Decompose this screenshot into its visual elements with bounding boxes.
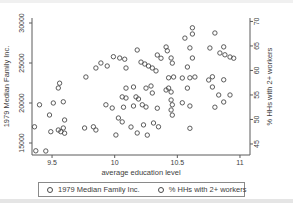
scatter-point: [222, 78, 226, 82]
scatter-point: [110, 106, 114, 110]
y-right-tick-label: 45: [253, 140, 260, 148]
scatter-point: [166, 76, 170, 80]
scatter-point: [207, 78, 211, 82]
scatter-point: [141, 123, 145, 127]
scatter-point: [185, 65, 189, 69]
scatter-point: [129, 125, 133, 129]
scatter-point: [94, 66, 98, 70]
scatter-point: [190, 26, 194, 30]
scatter-point: [61, 100, 65, 104]
scatter-point: [170, 103, 174, 107]
scatter-point: [183, 36, 187, 40]
scatter-point: [62, 118, 66, 122]
scatter-point: [156, 125, 160, 129]
y-left-tick-label: 15000: [18, 133, 25, 153]
y-right-tick-label: 65: [253, 42, 260, 50]
scatter-point: [62, 131, 66, 135]
legend-label-income: 1979 Median Family Inc.: [58, 185, 140, 194]
scatter-point: [190, 32, 194, 36]
scatter-point: [222, 100, 226, 104]
scatter-point: [140, 103, 144, 107]
scatter-point: [56, 86, 60, 90]
y-left-tick-label: 25000: [18, 53, 25, 73]
scatter-point: [170, 113, 174, 117]
y-right-tick-label: 60: [253, 66, 260, 74]
scatter-point: [223, 53, 227, 57]
scatter-point: [188, 46, 192, 50]
scatter-point: [169, 108, 173, 112]
scatter-point: [151, 121, 155, 125]
scatter-point: [91, 125, 95, 129]
legend-box: 1979 Median Family Inc. % HHs with 2+ wo…: [38, 182, 245, 197]
scatter-point: [123, 57, 127, 61]
legend-entry-workers: % HHs with 2+ workers: [158, 185, 247, 194]
scatter-point: [193, 75, 197, 79]
scatter-point: [104, 103, 108, 107]
scatter-point: [185, 86, 189, 90]
x-tick-label: 10: [111, 159, 119, 166]
scatter-point: [146, 64, 150, 68]
scatter-point: [49, 130, 53, 134]
scatter-point: [210, 75, 214, 79]
scatter-point: [135, 131, 139, 135]
scatter-plot: 9.51010.51115000200002500030000455055606…: [0, 0, 293, 204]
scatter-point: [155, 53, 159, 57]
scatter-point: [44, 149, 48, 153]
scatter-point: [145, 133, 149, 137]
scatter-point: [111, 55, 115, 59]
scatter-point: [180, 101, 184, 105]
scatter-point: [150, 91, 154, 95]
x-tick-label: 10.5: [171, 159, 185, 166]
legend-entry-income: 1979 Median Family Inc.: [47, 185, 140, 194]
scatter-point: [131, 104, 135, 108]
scatter-point: [169, 56, 173, 60]
scatter-point: [34, 149, 38, 153]
scatter-point: [217, 93, 221, 97]
scatter-point: [159, 56, 163, 60]
scatter-point: [144, 86, 148, 90]
scatter-point: [188, 126, 192, 130]
scatter-point: [32, 125, 36, 129]
scatter-point: [114, 133, 118, 137]
y-right-tick-label: 55: [253, 91, 260, 99]
scatter-point: [47, 113, 51, 117]
scatter-point: [213, 105, 217, 109]
scatter-point: [131, 85, 135, 89]
legend-label-workers: % HHs with 2+ workers: [169, 185, 247, 194]
scatter-point: [222, 45, 226, 49]
circle-marker-icon: [158, 187, 164, 193]
scatter-point: [155, 106, 159, 110]
scatter-point: [51, 101, 55, 105]
scatter-point: [37, 103, 41, 107]
scatter-point: [208, 46, 212, 50]
circle-marker-icon: [47, 187, 53, 193]
scatter-point: [105, 64, 109, 68]
scatter-point: [57, 81, 61, 85]
x-tick-label: 11: [236, 159, 243, 166]
scatter-point: [180, 76, 184, 80]
chart-figure: 9.51010.51115000200002500030000455055606…: [0, 0, 293, 204]
scatter-point: [188, 104, 192, 108]
scatter-point: [116, 116, 120, 120]
scatter-point: [228, 93, 232, 97]
scatter-point: [218, 51, 222, 55]
y-left-tick-label: 30000: [18, 13, 25, 33]
scatter-point: [124, 86, 128, 90]
scatter-point: [124, 66, 128, 70]
scatter-point: [188, 76, 192, 80]
scatter-point: [171, 75, 175, 79]
x-axis-title: average education level: [101, 168, 181, 177]
scatter-point: [82, 126, 86, 130]
scatter-point: [190, 56, 194, 60]
y-right-tick-label: 50: [253, 115, 260, 123]
scatter-point: [210, 85, 214, 89]
y-right-tick-label: 70: [253, 17, 260, 25]
scatter-point: [135, 48, 139, 52]
x-tick-label: 9.5: [47, 159, 57, 166]
scatter-point: [154, 69, 158, 73]
scatter-point: [213, 31, 217, 35]
scatter-point: [121, 105, 125, 109]
scatter-point: [99, 61, 103, 65]
scatter-point: [120, 120, 124, 124]
y-axis-right-title: % HHs with 2+ workers: [265, 47, 274, 125]
